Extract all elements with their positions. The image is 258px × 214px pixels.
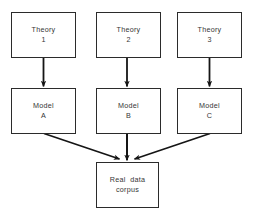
node-model-a-label-line1: Model bbox=[33, 101, 54, 112]
node-model-c-label-line2: C bbox=[207, 111, 212, 122]
node-theory-3-label-line1: Theory bbox=[198, 25, 222, 36]
node-theory-3-label-line2: 3 bbox=[207, 35, 211, 46]
node-model-a: Model A bbox=[11, 88, 76, 134]
node-model-b-label-line2: B bbox=[126, 111, 131, 122]
node-theory-2-label-line1: Theory bbox=[117, 25, 141, 36]
arrow-model-a-corpus bbox=[44, 134, 120, 160]
node-corpus-label-line1: Real data bbox=[110, 175, 145, 186]
node-theory-2: Theory 2 bbox=[96, 12, 161, 58]
node-model-a-label-line2: A bbox=[41, 111, 46, 122]
node-model-c: Model C bbox=[177, 88, 242, 134]
node-theory-1-label-line1: Theory bbox=[32, 25, 56, 36]
node-theory-1-label-line2: 1 bbox=[41, 35, 45, 46]
node-theory-1: Theory 1 bbox=[11, 12, 76, 58]
arrow-model-c-corpus bbox=[135, 134, 211, 160]
node-theory-2-label-line2: 2 bbox=[126, 35, 130, 46]
diagram-canvas: Theory 1 Theory 2 Theory 3 Model A Model… bbox=[0, 0, 258, 214]
node-corpus-label-line2: corpus bbox=[116, 185, 139, 196]
node-model-b-label-line1: Model bbox=[118, 101, 139, 112]
node-real-data-corpus: Real data corpus bbox=[96, 162, 159, 208]
node-model-b: Model B bbox=[96, 88, 161, 134]
node-model-c-label-line1: Model bbox=[199, 101, 220, 112]
node-theory-3: Theory 3 bbox=[177, 12, 242, 58]
